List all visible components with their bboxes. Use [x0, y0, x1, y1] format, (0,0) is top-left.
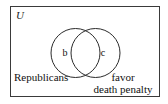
left-set-caption: Republicans [14, 72, 68, 84]
region-label-c: c [97, 48, 109, 58]
right-set-caption-line1: favor [88, 72, 158, 84]
right-set-caption: favor death penalty [88, 72, 158, 95]
venn-diagram-figure: U b c Republicans favor death penalty [0, 0, 168, 104]
region-label-b: b [59, 48, 71, 58]
right-set-caption-line2: death penalty [88, 84, 158, 96]
